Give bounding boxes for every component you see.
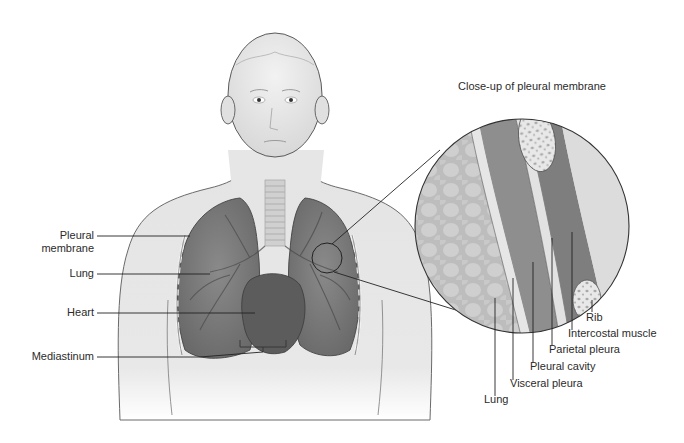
pleural-closeup-circle (410, 105, 640, 340)
label-pleural-cavity: Pleural cavity (530, 360, 595, 373)
label-pleural-membrane-line1: Pleural (41, 229, 94, 242)
label-rib: Rib (586, 311, 603, 324)
label-closeup-lung: Lung (484, 393, 508, 406)
label-intercostal-muscle: Intercostal muscle (568, 327, 657, 340)
pleural-anatomy-diagram: Close-up of pleural membrane Pleural mem… (0, 0, 684, 443)
label-pleural-membrane: Pleural membrane (41, 229, 94, 255)
label-heart: Heart (67, 306, 94, 319)
closeup-title: Close-up of pleural membrane (458, 80, 606, 92)
label-parietal-pleura: Parietal pleura (549, 343, 620, 356)
label-lung: Lung (70, 267, 94, 280)
label-pleural-membrane-line2: membrane (41, 242, 94, 255)
human-torso-illustration (118, 33, 432, 420)
label-mediastinum: Mediastinum (32, 350, 94, 363)
label-visceral-pleura: Visceral pleura (510, 377, 583, 390)
